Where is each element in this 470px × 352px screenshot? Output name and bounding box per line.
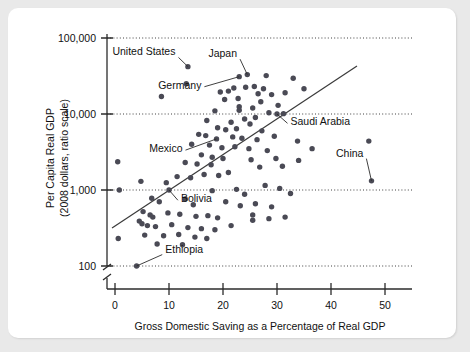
data-point xyxy=(203,133,208,138)
data-point xyxy=(253,201,258,206)
annotation-label-germany: Germany xyxy=(158,79,202,91)
annotation-label-mexico: Mexico xyxy=(149,142,182,154)
x-axis: 0 10 20 30 40 50 xyxy=(107,283,412,311)
data-point xyxy=(204,118,209,123)
data-point xyxy=(189,142,194,147)
data-point xyxy=(219,145,224,150)
annotation-leader-line xyxy=(169,190,178,200)
data-point xyxy=(194,161,199,166)
data-point xyxy=(164,180,169,185)
data-point xyxy=(193,214,198,219)
data-point xyxy=(138,179,143,184)
data-point xyxy=(250,218,255,223)
data-point xyxy=(265,148,270,153)
data-point xyxy=(269,92,274,97)
data-point xyxy=(232,144,237,149)
data-point xyxy=(199,226,204,231)
data-point xyxy=(215,125,220,130)
data-point xyxy=(272,134,277,139)
data-point xyxy=(243,85,248,90)
figure-panel: 100,000 10,000 1,000 100 0 10 20 30 40 5… xyxy=(8,8,456,338)
ytick-label-100000: 100,000 xyxy=(58,32,96,44)
y-axis-title-line1: Per Capita Real GDP xyxy=(44,108,56,208)
data-point xyxy=(250,212,255,217)
data-point xyxy=(296,158,301,163)
data-point xyxy=(228,120,233,125)
data-point xyxy=(216,173,221,178)
data-point xyxy=(188,175,193,180)
data-point xyxy=(226,88,231,93)
data-point xyxy=(159,94,164,99)
annotation-label-saudi-arabia: Saudi Arabia xyxy=(291,115,351,127)
data-point xyxy=(366,138,371,143)
data-point xyxy=(246,146,251,151)
annotation-label-china: China xyxy=(336,147,364,159)
data-point xyxy=(215,215,220,220)
annotation-leader-line xyxy=(240,59,247,74)
data-point xyxy=(154,241,159,246)
xtick-label-30: 30 xyxy=(271,299,283,311)
xtick-label-10: 10 xyxy=(163,299,175,311)
data-point xyxy=(205,213,210,218)
data-point xyxy=(199,152,204,157)
data-point xyxy=(282,214,287,219)
xtick-label-40: 40 xyxy=(325,299,337,311)
data-point xyxy=(218,89,223,94)
data-point xyxy=(238,203,243,208)
data-point xyxy=(250,105,255,110)
data-point xyxy=(275,103,280,108)
data-point xyxy=(266,216,271,221)
data-point xyxy=(207,142,212,147)
data-point xyxy=(231,85,236,90)
data-point xyxy=(210,155,215,160)
data-point xyxy=(252,84,257,89)
data-point xyxy=(253,115,258,120)
data-point xyxy=(183,160,188,165)
data-point xyxy=(259,128,264,133)
scatter-plot: 100,000 10,000 1,000 100 0 10 20 30 40 5… xyxy=(8,8,456,338)
data-point xyxy=(301,86,306,91)
data-point xyxy=(157,199,162,204)
data-point xyxy=(140,209,145,214)
data-point xyxy=(234,126,239,131)
data-point xyxy=(142,232,147,237)
data-point xyxy=(174,174,179,179)
data-point xyxy=(254,137,259,142)
data-point xyxy=(291,76,296,81)
ytick-label-100: 100 xyxy=(78,260,96,272)
data-point xyxy=(235,96,240,101)
data-point xyxy=(255,91,260,96)
annotation-leader-line xyxy=(366,159,371,181)
data-point xyxy=(177,212,182,217)
data-point xyxy=(239,136,244,141)
xtick-label-50: 50 xyxy=(379,299,391,311)
data-point xyxy=(115,159,120,164)
data-point xyxy=(234,187,239,192)
xtick-label-20: 20 xyxy=(217,299,229,311)
data-point xyxy=(161,233,166,238)
annotation-label-united-states: United States xyxy=(112,45,175,57)
y-axis-title-line2: (2008 dollars, ratio scale) xyxy=(58,99,70,217)
data-point xyxy=(242,116,247,121)
annotation-leader-line xyxy=(137,255,163,266)
data-point xyxy=(201,172,206,177)
data-point xyxy=(204,236,209,241)
data-point xyxy=(277,186,282,191)
data-point xyxy=(248,157,253,162)
data-point xyxy=(264,73,269,78)
data-point xyxy=(212,227,217,232)
data-point xyxy=(192,234,197,239)
data-point xyxy=(262,183,267,188)
data-point xyxy=(223,127,228,132)
data-point xyxy=(117,187,122,192)
annotation-label-bolivia: Bolivia xyxy=(181,192,212,204)
data-point xyxy=(228,223,233,228)
data-point xyxy=(258,99,263,104)
data-point xyxy=(309,146,314,151)
data-point xyxy=(116,236,121,241)
data-point xyxy=(280,164,285,169)
data-point xyxy=(176,232,181,237)
annotation-leader-line xyxy=(204,77,239,87)
x-axis-title: Gross Domestic Saving as a Percentage of… xyxy=(135,320,386,332)
data-point xyxy=(226,170,231,175)
